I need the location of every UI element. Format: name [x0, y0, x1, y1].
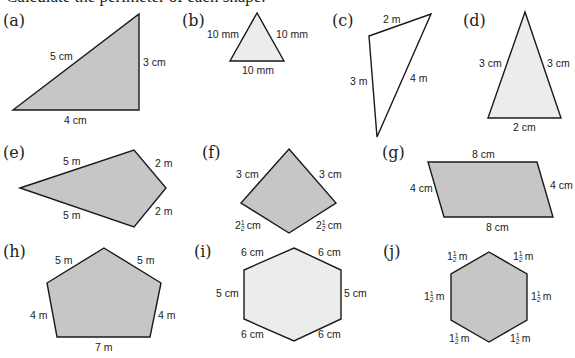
- side-label: 5 m: [137, 254, 155, 266]
- side-label: 8 cm: [486, 221, 509, 233]
- side-label: 212cm: [316, 219, 342, 232]
- shape-i: (i) 6 cm 6 cm 5 cm 5 cm 6 cm 6 cm: [194, 242, 367, 341]
- part-label-f: (f): [202, 143, 220, 162]
- side-label: 10 mm: [276, 28, 308, 40]
- parallelogram: [428, 162, 553, 217]
- svg-text:112m: 112m: [424, 290, 445, 303]
- side-label: 2 m: [155, 157, 173, 169]
- part-label-e: (e): [3, 143, 25, 162]
- side-label: 5 cm: [50, 50, 73, 62]
- side-label: 2 m: [155, 205, 173, 217]
- side-label: 10 mm: [207, 28, 239, 40]
- part-label-g: (g): [382, 143, 405, 162]
- svg-text:112m: 112m: [531, 290, 552, 303]
- part-label-h: (h): [3, 242, 26, 261]
- side-label: 6 cm: [318, 328, 341, 340]
- side-label: 4 cm: [410, 182, 433, 194]
- shape-j: (j) 112m 112m 112m 112m 112m 112m: [383, 242, 552, 345]
- part-label-b: (b): [182, 11, 205, 30]
- side-label: 5 m: [55, 254, 73, 266]
- side-label: 3 cm: [547, 57, 570, 69]
- side-label: 5 m: [63, 155, 81, 167]
- shape-a: (a) 5 cm 3 cm 4 cm: [3, 11, 166, 126]
- side-label: 3 m: [350, 75, 368, 87]
- side-label: 3 cm: [479, 57, 502, 69]
- side-label: 10 mm: [242, 64, 274, 76]
- side-label: 8 cm: [472, 148, 495, 160]
- side-label: 2 m: [383, 13, 401, 25]
- part-label-i: (i): [194, 242, 212, 261]
- side-label: 3 cm: [143, 56, 166, 68]
- side-label: 5 cm: [344, 287, 367, 299]
- svg-text:112m: 112m: [510, 332, 531, 345]
- part-label-j: (j): [383, 242, 400, 261]
- part-label-a: (a): [3, 11, 25, 30]
- side-label: 5 m: [63, 209, 81, 221]
- shape-g: (g) 8 cm 4 cm 4 cm 8 cm: [382, 143, 573, 233]
- side-label: 4 cm: [64, 114, 87, 126]
- svg-text:112m: 112m: [449, 332, 470, 345]
- side-label: 4 m: [410, 72, 428, 84]
- side-label: 212cm: [235, 219, 261, 232]
- side-label: 3 cm: [236, 168, 259, 180]
- side-label: 6 cm: [241, 246, 264, 258]
- svg-text:112m: 112m: [447, 250, 468, 263]
- side-label: 4 m: [30, 309, 48, 321]
- kite: [20, 150, 166, 227]
- exercise-title: Calculate the perimeter of each shape.: [6, 0, 266, 6]
- shape-f: (f) 3 cm 3 cm 212cm 212cm: [202, 143, 342, 233]
- side-label: 4 m: [158, 309, 176, 321]
- shape-b: (b) 10 mm 10 mm 10 mm: [182, 11, 308, 76]
- side-label: 5 cm: [216, 287, 239, 299]
- shape-d: (d) 3 cm 3 cm 2 cm: [463, 11, 570, 133]
- part-label-c: (c): [332, 11, 353, 30]
- perimeter-exercise-figure: Calculate the perimeter of each shape. (…: [0, 0, 575, 358]
- side-label: 3 cm: [319, 168, 342, 180]
- svg-text:112m: 112m: [513, 250, 534, 263]
- side-label: 4 cm: [550, 179, 573, 191]
- side-label: 7 m: [95, 341, 113, 353]
- right-triangle: [13, 14, 139, 110]
- side-label: 6 cm: [241, 328, 264, 340]
- side-label: 6 cm: [318, 246, 341, 258]
- shape-h: (h) 5 m 5 m 4 m 4 m 7 m: [3, 242, 176, 353]
- side-label: 2 cm: [513, 121, 536, 133]
- shape-c: (c) 2 m 3 m 4 m: [332, 11, 431, 137]
- shape-e: (e) 5 m 2 m 5 m 2 m: [3, 143, 173, 227]
- regular-hexagon: [451, 252, 527, 342]
- part-label-d: (d): [463, 11, 486, 30]
